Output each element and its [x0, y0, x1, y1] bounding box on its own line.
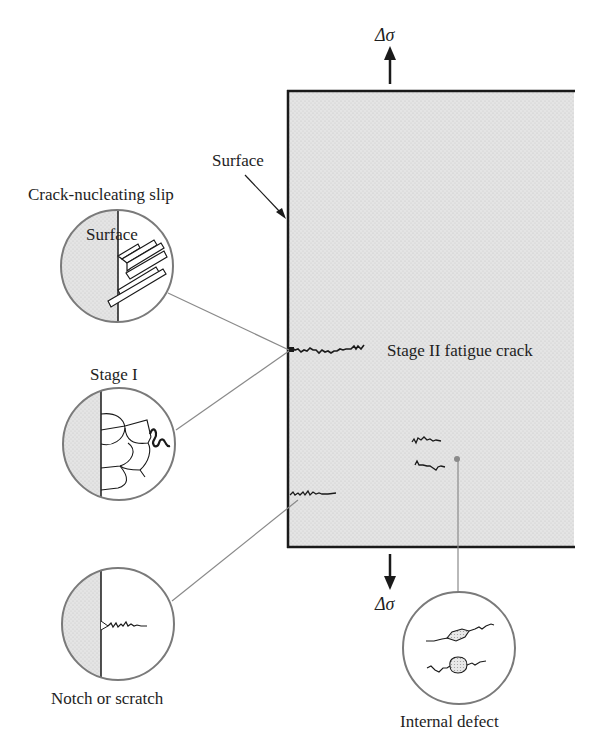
- crack-nucleating-slip-label: Crack-nucleating slip: [28, 186, 174, 203]
- surface-pointer-arrow-icon: [245, 175, 286, 219]
- specimen: [287, 90, 575, 548]
- stage-ii-label: Stage II fatigue crack: [387, 342, 533, 359]
- surface-label: Surface: [212, 152, 264, 169]
- delta-sigma-top-label: Δσ: [375, 26, 394, 44]
- delta-sigma-bottom-label: Δσ: [375, 595, 394, 613]
- notch-label: Notch or scratch: [51, 690, 163, 707]
- detail-circle-stage-i: [55, 385, 175, 505]
- stage-i-label: Stage I: [90, 366, 138, 383]
- detail-circle-internal-defect: [403, 592, 515, 704]
- detail-circle-notch: [55, 565, 174, 685]
- stress-arrow-up-icon: [384, 46, 396, 84]
- internal-defect-label: Internal defect: [400, 713, 499, 730]
- stress-arrow-down-icon: [384, 554, 396, 590]
- detail-circle-slip: [55, 205, 173, 330]
- circle-surface-label: Surface: [86, 226, 138, 243]
